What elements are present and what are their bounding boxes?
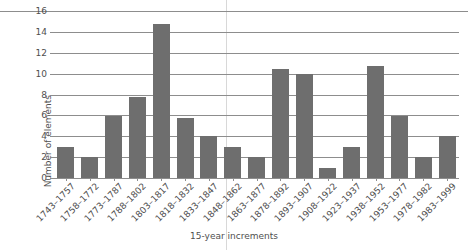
x-axis-tick [233,178,234,181]
bar [439,136,456,178]
plot-area: Number of elements 0246810121416 [54,11,459,179]
bar [319,168,336,178]
x-axis-tick [90,178,91,181]
bar [81,157,98,178]
y-axis-tick-label: 16 [36,6,47,16]
x-axis-tick [328,178,329,181]
bar [343,147,360,178]
x-axis-tick [304,178,305,181]
x-axis-tick [447,178,448,181]
bar [415,157,432,178]
x-axis-tick [352,178,353,181]
bar [391,116,408,178]
bar-series [54,11,459,178]
y-axis-tick-label: 4 [41,131,47,141]
x-axis-title: 15-year increments [0,231,468,241]
x-axis-tick [423,178,424,181]
x-axis-tick [209,178,210,181]
y-axis-tick-label: 10 [36,69,47,79]
y-axis-tick-label: 12 [36,48,47,58]
x-axis-tick [66,178,67,181]
x-axis-tick [114,178,115,181]
x-axis-tick [137,178,138,181]
bar [248,157,265,178]
bar [177,118,194,178]
x-axis-tick [257,178,258,181]
bar [272,69,289,178]
y-axis-tick-label: 2 [41,152,47,162]
x-axis-tick [161,178,162,181]
y-axis-tick-label: 6 [41,110,47,120]
y-axis-tick-label: 0 [41,173,47,183]
bar [367,66,384,178]
bar [296,74,313,178]
bar [200,136,217,178]
bar [129,97,146,178]
x-axis-tick [399,178,400,181]
y-axis-tick-label: 14 [36,27,47,37]
bar-chart-figure: Number of elements 0246810121416 1743–17… [0,0,468,250]
x-axis-tick [376,178,377,181]
bar [153,24,170,178]
bar [57,147,74,178]
x-axis-tick-labels: 1743–17571758–17721773–17871788–18021803… [54,181,459,231]
bar [224,147,241,178]
x-axis-tick [185,178,186,181]
y-axis-tick-label: 8 [41,90,47,100]
bar [105,116,122,178]
x-axis-tick [280,178,281,181]
